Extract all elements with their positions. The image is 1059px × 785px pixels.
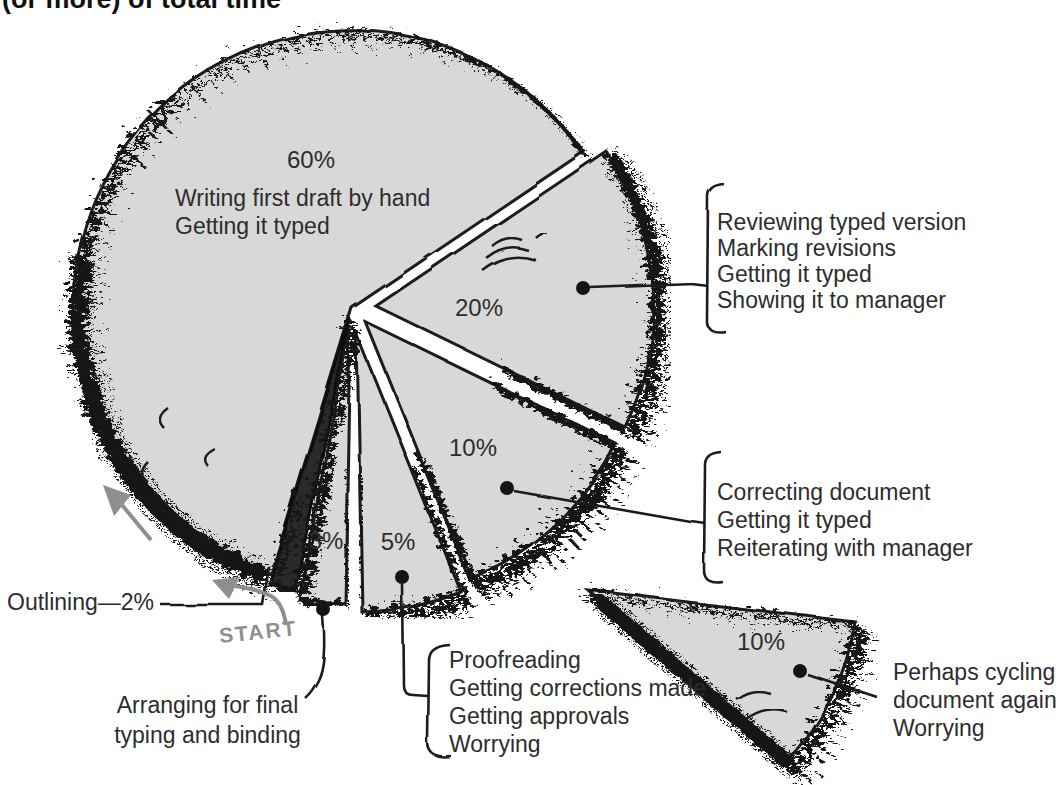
pct-label-60: 60% — [283, 146, 339, 174]
direction-arrow-line — [122, 505, 151, 540]
slice-detached-activity-1: Perhaps cycling — [893, 658, 1057, 686]
slice-3-activities: Arranging for final typing and binding — [105, 690, 310, 750]
slice-detached-activity-3: Worrying — [893, 714, 1057, 742]
outlining-callout: Outlining—2% — [7, 588, 154, 616]
callout-dot-10 — [500, 481, 514, 495]
slice-5-activities: Proofreading Getting corrections made Ge… — [449, 646, 706, 758]
slice-60-activity-2: Getting it typed — [175, 212, 430, 240]
pct-label-detached-10: 10% — [732, 628, 790, 656]
slice-10-activity-1: Correcting document — [717, 478, 973, 506]
pct-label-20: 20% — [450, 294, 508, 322]
slice-60-activities: Writing first draft by hand Getting it t… — [175, 184, 430, 240]
slice-10-activity-2: Getting it typed — [717, 506, 973, 534]
pct-label-3: 3% — [303, 527, 349, 555]
slice-10-activity-3: Reiterating with manager — [717, 534, 973, 562]
callout-dot-3 — [316, 602, 330, 616]
connector-3 — [305, 616, 324, 698]
bracket-20-tick — [692, 284, 708, 286]
slice-5-activity-1: Proofreading — [449, 646, 706, 674]
slice-detached-activities: Perhaps cycling document again Worrying — [893, 658, 1057, 742]
slice-5-activity-4: Worrying — [449, 730, 706, 758]
slice-10-activities: Correcting document Getting it typed Rei… — [717, 478, 973, 562]
slice-5-activity-3: Getting approvals — [449, 702, 706, 730]
slice-20-activities: Reviewing typed version Marking revision… — [717, 209, 966, 313]
bracket-5 — [427, 644, 451, 756]
callout-dot-detached — [793, 664, 807, 678]
pct-label-10: 10% — [444, 434, 502, 462]
slice-detached-activity-2: document again — [893, 686, 1057, 714]
slice-20-activity-4: Showing it to manager — [717, 287, 966, 313]
slice-3-activity-line-1: Arranging for final — [105, 690, 310, 720]
figure-title-partial: (or more) of total time — [2, 0, 281, 15]
callout-dot-20 — [576, 281, 590, 295]
callout-dot-5 — [395, 570, 409, 584]
slice-60-activity-1: Writing first draft by hand — [175, 184, 430, 212]
bracket-10-tick — [691, 521, 705, 523]
figure-hand-drawn-pie-chart: (or more) of total time 60% Writing firs… — [0, 0, 1059, 785]
slice-20-activity-3: Getting it typed — [717, 261, 966, 287]
slice-20-activity-2: Marking revisions — [717, 235, 966, 261]
slice-20-activity-1: Reviewing typed version — [717, 209, 966, 235]
slice-3-activity-line-2: typing and binding — [105, 720, 310, 750]
slice-5-activity-2: Getting corrections made — [449, 674, 706, 702]
pct-label-5: 5% — [374, 528, 422, 556]
